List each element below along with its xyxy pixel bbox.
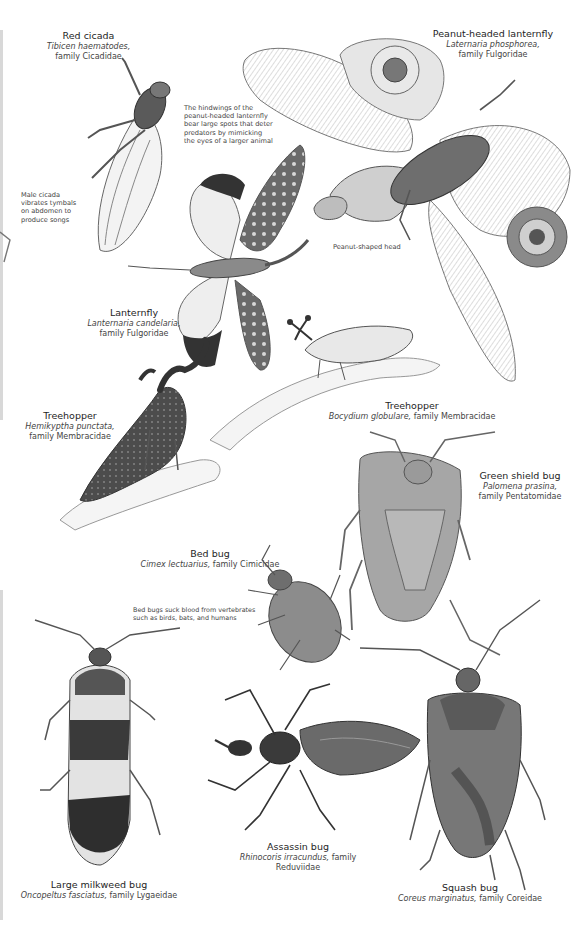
family-name: family Fulgoridae — [418, 50, 568, 60]
label-green-shield-bug: Green shield bug Palomena prasina, famil… — [466, 470, 574, 502]
scientific-name: Laternaria phosphorea, — [446, 40, 540, 49]
common-name: Peanut-headed lanternfly — [418, 28, 568, 40]
common-name: Squash bug — [395, 882, 545, 894]
common-name: Treehopper — [322, 400, 502, 412]
partial-leg-left — [0, 232, 10, 262]
note-peanut-head: Peanut-shaped head — [333, 243, 433, 251]
scientific-name: Bocydium globulare, — [329, 412, 411, 421]
note-bed-bug: Bed bugs suck blood from vertebrates suc… — [133, 606, 283, 622]
label-lanternfly: Lanternfly Lanternaria candelaria, famil… — [84, 307, 184, 339]
label-bed-bug: Bed bug Cimex lectuarius, family Cimicid… — [140, 548, 280, 570]
common-name: Red cicada — [36, 30, 141, 42]
large-milkweed-bug-illustration — [35, 620, 180, 865]
label-squash-bug: Squash bug Coreus marginatus, family Cor… — [395, 882, 545, 904]
green-shield-bug-illustration — [340, 432, 500, 655]
common-name: Assassin bug — [218, 841, 378, 853]
scientific-name: Cimex lectuarius, — [141, 560, 211, 569]
label-treehopper-bocydium: Treehopper Bocydium globulare, family Me… — [322, 400, 502, 422]
label-large-milkweed-bug: Large milkweed bug Oncopeltus fasciatus,… — [14, 879, 184, 901]
label-peanut-headed-lanternfly: Peanut-headed lanternfly Laternaria phos… — [418, 28, 568, 60]
label-treehopper-hemikyptha: Treehopper Hemikyptha punctata, family M… — [20, 410, 120, 442]
family-name: family Membracidae — [20, 432, 120, 442]
scientific-name: Palomena prasina, — [483, 482, 557, 491]
common-name: Lanternfly — [84, 307, 184, 319]
scientific-name: Hemikyptha punctata, — [25, 422, 114, 431]
common-name: Green shield bug — [466, 470, 574, 482]
scientific-name: Coreus marginatus, — [398, 894, 477, 903]
scientific-name: Lanternaria candelaria, — [87, 319, 180, 328]
common-name: Large milkweed bug — [14, 879, 184, 891]
assassin-bug-illustration — [208, 684, 420, 830]
family-name: family Pentatomidae — [466, 492, 574, 502]
family-name: family Fulgoridae — [84, 329, 184, 339]
family-name: family Coreidae — [479, 894, 542, 903]
scientific-name: Rhinocoris irracundus, — [240, 853, 329, 862]
family-name: family Lygaeidae — [109, 891, 177, 900]
common-name: Treehopper — [20, 410, 120, 422]
note-cicada-tymbals: Male cicada vibrates tymbals on abdomen … — [21, 191, 91, 224]
label-red-cicada: Red cicada Tibicen haematodes, family Ci… — [36, 30, 141, 62]
family-name: family Cicadidae — [36, 52, 141, 62]
family-name: family Membracidae — [414, 412, 496, 421]
red-cicada-illustration — [88, 58, 172, 251]
label-assassin-bug: Assassin bug Rhinocoris irracundus, fami… — [218, 841, 378, 873]
note-hindwings: The hindwings of the peanut-headed lante… — [184, 104, 294, 145]
common-name: Bed bug — [140, 548, 280, 560]
family-name: family Cimicidae — [213, 560, 280, 569]
scientific-name: Oncopeltus fasciatus, — [21, 891, 107, 900]
scientific-name: Tibicen haematodes, — [47, 42, 131, 51]
